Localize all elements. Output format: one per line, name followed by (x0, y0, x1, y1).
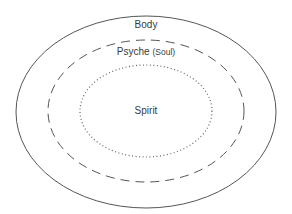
psyche-label: Psyche (Soul) (117, 46, 175, 57)
psyche-name: Psyche (117, 46, 150, 57)
spirit-label: Spirit (135, 105, 158, 116)
body-label: Body (135, 19, 158, 30)
psyche-subtitle: (Soul) (152, 47, 175, 57)
